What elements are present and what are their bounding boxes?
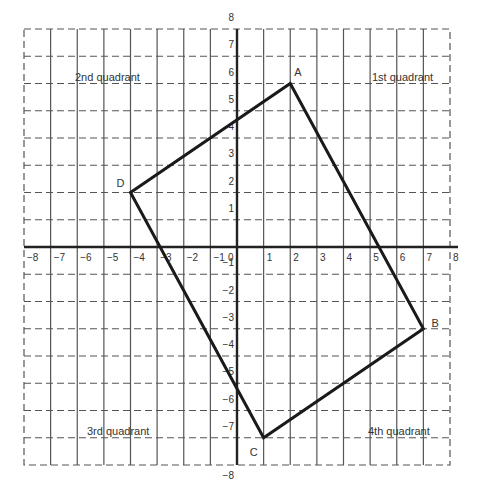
y-tick-label: −6 <box>223 394 235 405</box>
quadrant-label-2nd: 2nd quadrant <box>75 71 140 83</box>
vertex-label-d: D <box>117 177 125 189</box>
vertex-label-a: A <box>294 66 302 78</box>
y-tick-label: 7 <box>228 39 234 50</box>
x-tick-label: 4 <box>347 252 353 263</box>
x-tick-label: 6 <box>400 252 406 263</box>
y-tick-label: 5 <box>228 94 234 105</box>
y-tick-label: 1 <box>228 203 234 214</box>
y-tick-label: 6 <box>228 67 234 78</box>
y-tick-label: 3 <box>228 148 234 159</box>
vertex-label-c: C <box>250 446 258 458</box>
axes <box>24 29 458 465</box>
coordinate-plane: −8−7−6−5−4−3−2−1012345678 87654321−1−2−3… <box>0 0 478 497</box>
quadrilateral-abcd <box>131 84 424 438</box>
x-tick-label: 7 <box>426 252 432 263</box>
quadrant-label-3rd: 3rd quadrant <box>87 425 149 437</box>
x-axis-tick-labels: −8−7−6−5−4−3−2−1012345678 <box>27 252 459 263</box>
y-tick-label: −3 <box>223 312 235 323</box>
x-tick-label: 1 <box>267 252 273 263</box>
y-tick-label: −7 <box>223 421 235 432</box>
y-tick-label: −2 <box>223 285 235 296</box>
x-tick-label: −8 <box>27 252 39 263</box>
x-tick-label: −2 <box>187 252 199 263</box>
y-tick-label: −1 <box>223 257 235 268</box>
x-tick-label: −4 <box>134 252 146 263</box>
x-tick-label: 8 <box>453 252 459 263</box>
x-tick-label: −6 <box>80 252 92 263</box>
x-tick-label: 2 <box>293 252 299 263</box>
x-tick-label: −5 <box>107 252 119 263</box>
x-tick-label: −7 <box>54 252 66 263</box>
quadrant-label-1st: 1st quadrant <box>372 71 433 83</box>
vertex-label-b: B <box>431 317 438 329</box>
y-tick-label: 2 <box>228 176 234 187</box>
y-tick-label: 8 <box>228 12 234 23</box>
x-tick-label: 3 <box>320 252 326 263</box>
y-tick-label: −4 <box>223 339 235 350</box>
quadrant-label-4th: 4th quadrant <box>368 425 430 437</box>
y-tick-label: −8 <box>223 470 235 481</box>
x-tick-label: 5 <box>373 252 379 263</box>
